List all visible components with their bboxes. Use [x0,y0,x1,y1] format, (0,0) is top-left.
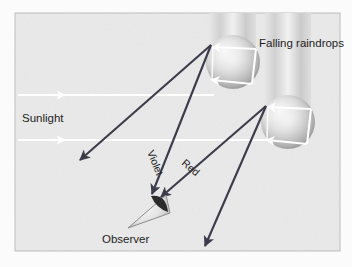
upper-drop-entry-face [212,47,213,80]
falling-raindrops-label: Falling raindrops [259,37,344,49]
rainbow-formation-figure: Sunlight Falling raindrops Violet Red Ob… [0,0,352,267]
lower-drop-entry-face [267,107,268,140]
lower-raindrop [261,13,315,149]
observer-label: Observer [102,233,149,245]
upper-raindrop [206,13,260,89]
diagram-canvas: Sunlight Falling raindrops Violet Red Ob… [0,0,352,267]
sunlight-label: Sunlight [22,112,64,124]
